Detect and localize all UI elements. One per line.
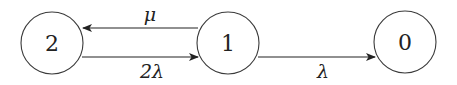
state-node-1: 1 (197, 12, 259, 74)
node-label: 0 (398, 30, 412, 55)
edge-label-mu: μ (144, 3, 156, 25)
edge-1-to-2: μ (83, 3, 198, 28)
state-node-0: 0 (374, 11, 436, 73)
state-node-2: 2 (21, 12, 83, 74)
node-label: 1 (221, 31, 235, 56)
edge-label-lambda: λ (316, 60, 329, 82)
edge-1-to-0: λ (258, 57, 375, 82)
node-label: 2 (45, 31, 59, 56)
edge-2-to-1: 2λ (82, 57, 198, 82)
state-diagram: 2 1 0 μ 2λ λ (0, 0, 457, 85)
edge-label-2lambda: 2λ (139, 60, 164, 82)
